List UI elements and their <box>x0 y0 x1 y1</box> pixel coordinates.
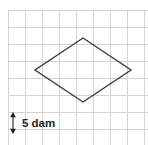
geometry-figure: 5 dam <box>0 0 148 145</box>
scale-label: 5 dam <box>22 117 55 129</box>
figure-canvas: 5 dam <box>0 0 148 145</box>
